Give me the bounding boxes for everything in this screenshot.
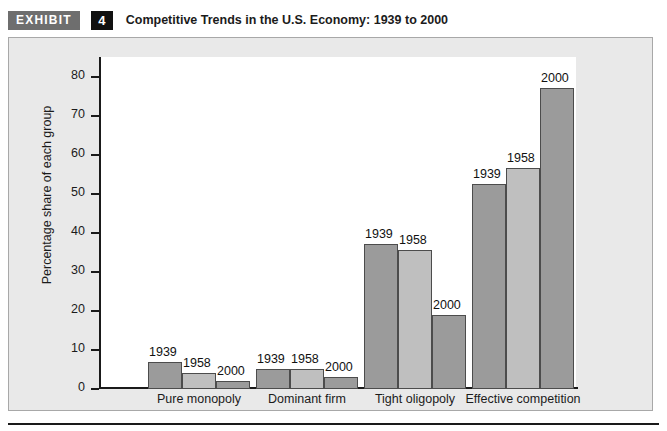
y-axis-tick-mark [91, 232, 99, 234]
bar-value-label: 1939 [149, 345, 177, 359]
bar-value-label: 1958 [183, 356, 211, 370]
bar-value-label: 1939 [473, 167, 501, 181]
bar [472, 184, 506, 389]
y-axis-tick-mark [91, 115, 99, 117]
bar-value-label: 1958 [507, 151, 535, 165]
y-axis-tick-label: 0 [78, 380, 85, 394]
y-axis-tick-label: 40 [71, 224, 85, 238]
exhibit-badge: EXHIBIT [8, 11, 80, 30]
y-axis-tick-label: 60 [71, 146, 85, 160]
y-axis-tick-mark [91, 154, 99, 156]
exhibit-header: EXHIBIT 4 Competitive Trends in the U.S.… [8, 9, 659, 31]
bar-value-label: 2000 [325, 360, 353, 374]
y-axis-tick-mark [91, 271, 99, 273]
y-axis-tick-label: 80 [71, 68, 85, 82]
y-axis-tick-mark [91, 193, 99, 195]
bar [182, 373, 216, 389]
exhibit-title: Competitive Trends in the U.S. Economy: … [126, 13, 448, 27]
bar [398, 250, 432, 389]
y-axis-tick-label: 10 [71, 341, 85, 355]
y-axis-tick-label: 20 [71, 302, 85, 316]
bar-value-label: 1958 [399, 233, 427, 247]
bar [290, 369, 324, 389]
y-axis-tick-label: 50 [71, 185, 85, 199]
bar-value-label: 1958 [291, 352, 319, 366]
y-axis-tick-mark [91, 76, 99, 78]
y-axis-tick-label: 30 [71, 263, 85, 277]
bottom-rule [8, 423, 659, 425]
bar [324, 377, 358, 389]
bar [432, 315, 466, 389]
bar [216, 381, 250, 389]
y-axis-tick-mark [91, 310, 99, 312]
bar [506, 168, 540, 389]
y-axis-tick-mark [91, 388, 99, 390]
bar [364, 244, 398, 389]
y-axis-title: Percentage share of each group [40, 55, 54, 335]
bar-value-label: 1939 [365, 227, 393, 241]
y-axis-tick-mark [91, 349, 99, 351]
exhibit-number-badge: 4 [91, 11, 113, 30]
y-axis-line [99, 57, 101, 389]
x-axis-category-label: Effective competition [433, 392, 613, 406]
bar [148, 362, 182, 389]
bar [256, 369, 290, 389]
bar-value-label: 2000 [433, 298, 461, 312]
y-axis-tick-label: 70 [71, 107, 85, 121]
bar-value-label: 2000 [541, 71, 569, 85]
bar-value-label: 2000 [217, 364, 245, 378]
bar-value-label: 1939 [257, 352, 285, 366]
bar [540, 88, 574, 389]
